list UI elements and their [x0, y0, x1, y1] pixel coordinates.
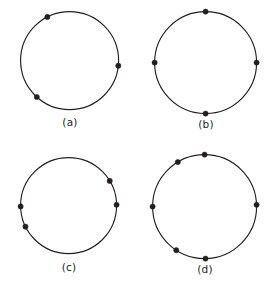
vertex-dot-c-3 — [18, 204, 23, 209]
vertex-dot-b-1 — [203, 9, 208, 14]
panel-a-label: (a) — [15, 116, 124, 128]
vertex-dot-c-1 — [108, 179, 113, 184]
circle-outline — [155, 12, 257, 114]
vertex-dot-b-2 — [254, 60, 259, 65]
vertex-dot-d-4 — [174, 248, 179, 253]
panel-c-svg — [15, 152, 122, 259]
vertex-dot-d-6 — [254, 203, 259, 208]
vertex-dot-c-4 — [23, 224, 28, 229]
circle-outline — [21, 158, 117, 254]
vertex-dot-d-2 — [176, 160, 181, 165]
vertex-dot-c-2 — [114, 203, 119, 208]
panel-d-label: (d) — [147, 263, 262, 275]
vertex-dot-a-1 — [45, 15, 50, 20]
panel-b: (b) — [149, 6, 262, 119]
circle-outline — [153, 155, 257, 259]
vertex-dot-d-3 — [150, 204, 155, 209]
vertex-dot-d-1 — [202, 152, 207, 157]
figure-container: (a) (b) (c) (d) — [0, 0, 271, 288]
vertex-dot-a-3 — [35, 95, 40, 100]
panel-c-label: (c) — [15, 261, 122, 273]
vertex-dot-b-3 — [203, 111, 208, 116]
panel-d-svg — [147, 149, 262, 264]
vertex-dot-b-4 — [152, 60, 157, 65]
panel-c: (c) — [15, 152, 122, 259]
panel-a: (a) — [15, 6, 124, 115]
panel-a-svg — [15, 6, 124, 115]
vertex-dot-d-5 — [203, 256, 208, 261]
panel-b-svg — [149, 6, 262, 119]
vertex-dot-a-2 — [116, 64, 121, 69]
panel-d: (d) — [147, 149, 262, 264]
panel-b-label: (b) — [149, 118, 262, 130]
